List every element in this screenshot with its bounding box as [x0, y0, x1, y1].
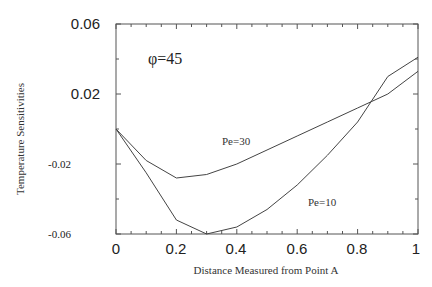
- x-tick-label: 0.4: [226, 240, 247, 257]
- x-tick-label: 0.8: [347, 240, 368, 257]
- line-chart: 0.06 0.02 -0.02 -0.06 0 0.2 0.4 0.6 0.8 …: [0, 0, 432, 287]
- phi-annotation: φ=45: [148, 50, 182, 68]
- x-tick-label: 1: [412, 240, 420, 257]
- x-tick-label: 0: [112, 240, 120, 257]
- y-tick-label: -0.02: [48, 158, 71, 170]
- pe10-label: Pe=10: [308, 196, 337, 208]
- x-axis-title: Distance Measured from Point A: [194, 264, 339, 276]
- x-tick-label: 0.6: [287, 240, 308, 257]
- y-axis-title: Temperature Sensitivities: [14, 83, 26, 195]
- series-pe10-line: [116, 57, 418, 234]
- pe30-label: Pe=30: [222, 135, 251, 147]
- x-tick-label: 0.2: [166, 240, 187, 257]
- series-pe30-line: [116, 71, 418, 178]
- y-tick-label: -0.06: [48, 228, 71, 240]
- y-tick-label: 0.06: [71, 15, 100, 32]
- y-tick-label: 0.02: [71, 85, 100, 102]
